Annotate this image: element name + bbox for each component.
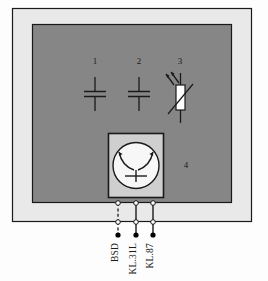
- terminal-kl31l-node-lower: [134, 220, 139, 225]
- terminal-bsd-node-lower: [116, 220, 121, 225]
- schematic-canvas: 1 2 3: [0, 0, 268, 281]
- component-4-number: 4: [184, 160, 189, 170]
- ldr-body: [176, 85, 185, 110]
- component-3-number: 3: [178, 56, 183, 66]
- terminal-bsd-node-upper: [116, 201, 121, 206]
- component-2-number: 2: [137, 56, 142, 66]
- schematic-diagram: 1 2 3: [0, 0, 268, 281]
- terminal-bsd-label: BSD: [110, 243, 120, 262]
- terminal-kl31l-node-upper: [134, 201, 139, 206]
- terminal-kl87-label: KL.87: [145, 243, 155, 269]
- terminal-kl31l-label: KL.31L: [128, 243, 138, 275]
- component-1-number: 1: [93, 56, 98, 66]
- terminal-kl87-node-upper: [151, 201, 156, 206]
- terminal-kl31l-endpoint: [133, 232, 138, 237]
- terminal-bsd-endpoint: [115, 232, 120, 237]
- terminal-kl87-node-lower: [151, 220, 156, 225]
- terminal-kl87-endpoint: [150, 232, 155, 237]
